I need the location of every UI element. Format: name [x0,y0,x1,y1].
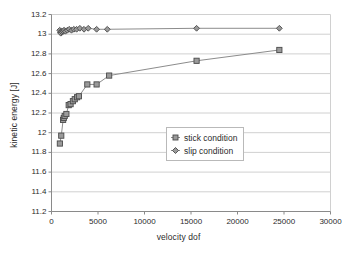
data-point-stick [277,47,282,52]
y-tick-label: 12.2 [13,108,47,117]
y-tick-label: 13.2 [13,10,47,19]
data-point-stick [107,73,112,78]
x-tick-label: 20000 [213,217,263,226]
x-axis-title: velocity dof [0,232,357,242]
data-point-stick [194,58,199,63]
x-tick-label: 10000 [120,217,170,226]
y-tick-label: 13 [13,29,47,38]
x-tick-label: 30000 [306,217,356,226]
data-point-slip [194,25,200,31]
y-tick-label: 11.4 [13,187,47,196]
y-tick-label: 12.4 [13,88,47,97]
y-tick-label: 11.6 [13,167,47,176]
legend-square-marker-icon [171,133,180,142]
y-tick-label: 11.8 [13,147,47,156]
x-tick-label: 25000 [259,217,309,226]
y-tick-label: 12 [13,128,47,137]
data-point-slip [94,26,100,32]
data-point-stick [57,141,62,146]
legend-square [173,135,178,140]
x-tick-label: 5000 [73,217,123,226]
y-tick-label: 11.2 [13,207,47,216]
x-tick-label: 15000 [166,217,216,226]
kinetic-energy-chart: velocity dof kinetic energy [J] 11.211.4… [0,0,357,254]
data-point-stick [85,82,90,87]
data-point-stick [76,94,81,99]
chart-legend: stick conditionslip condition [166,127,244,161]
series-line-diamond [60,28,280,33]
legend-label: stick condition [184,133,237,143]
y-tick-label: 12.8 [13,49,47,58]
data-point-slip [104,26,110,32]
data-point-stick [64,111,69,116]
legend-diamond-marker-icon [171,146,180,155]
x-tick-label: 0 [27,217,77,226]
legend-label: slip condition [184,146,233,156]
data-point-slip [276,25,282,31]
legend-item: stick condition [171,131,237,144]
data-point-stick [94,82,99,87]
legend-diamond [173,148,179,154]
legend-item: slip condition [171,144,237,157]
data-point-stick [59,133,64,138]
y-tick-label: 12.6 [13,69,47,78]
